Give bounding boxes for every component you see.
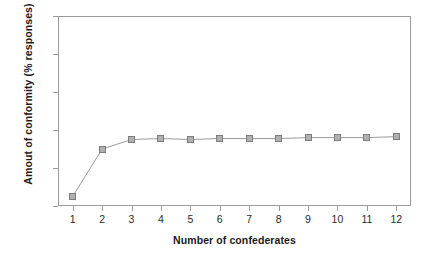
data-point-marker (187, 136, 194, 143)
data-point-marker (128, 136, 135, 143)
x-axis-title: Number of confederates (58, 234, 411, 246)
data-point-marker (275, 135, 282, 142)
y-tick-mark (53, 130, 58, 131)
data-point-marker (305, 134, 312, 141)
x-tick-label: 10 (322, 213, 352, 225)
data-point-marker (69, 193, 76, 200)
plot-area (58, 16, 411, 206)
x-tick-mark (102, 206, 103, 211)
x-tick-label: 12 (381, 213, 411, 225)
x-tick-mark (190, 206, 191, 211)
y-tick-mark (53, 92, 58, 93)
x-tick-label: 5 (175, 213, 205, 225)
x-tick-mark (249, 206, 250, 211)
x-tick-label: 6 (205, 213, 235, 225)
x-tick-mark (73, 206, 74, 211)
x-tick-label: 4 (146, 213, 176, 225)
y-tick-mark (53, 16, 58, 17)
x-tick-label: 9 (293, 213, 323, 225)
x-tick-mark (220, 206, 221, 211)
x-tick-mark (279, 206, 280, 211)
x-tick-label: 1 (58, 213, 88, 225)
x-tick-label: 11 (352, 213, 382, 225)
y-tick-mark (53, 206, 58, 207)
x-tick-label: 8 (264, 213, 294, 225)
data-point-marker (246, 135, 253, 142)
data-point-marker (393, 133, 400, 140)
x-tick-label: 2 (87, 213, 117, 225)
x-tick-label: 7 (234, 213, 264, 225)
data-point-marker (334, 134, 341, 141)
data-point-marker (363, 134, 370, 141)
y-axis-title: Amout of conformity (% responses) (22, 0, 34, 194)
data-point-marker (99, 146, 106, 153)
y-tick-mark (53, 168, 58, 169)
data-point-marker (216, 135, 223, 142)
x-tick-mark (308, 206, 309, 211)
x-tick-mark (337, 206, 338, 211)
data-point-marker (157, 135, 164, 142)
x-tick-mark (132, 206, 133, 211)
x-tick-mark (161, 206, 162, 211)
chart-page: Amout of conformity (% responses) 020406… (0, 0, 431, 258)
x-tick-mark (367, 206, 368, 211)
y-tick-mark (53, 54, 58, 55)
x-tick-label: 3 (117, 213, 147, 225)
x-tick-mark (396, 206, 397, 211)
